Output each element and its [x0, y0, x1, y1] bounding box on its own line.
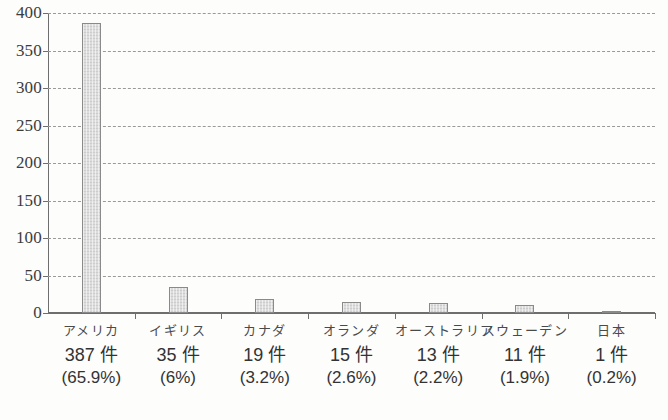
gridline-350	[48, 51, 655, 52]
y-axis-tick-label: 100	[2, 229, 42, 246]
y-tick-mark-100	[43, 238, 48, 239]
category-count-label: 11 件	[482, 343, 569, 367]
category-percent-label: (3.2%)	[221, 367, 308, 389]
category-count-label: 13 件	[395, 343, 482, 367]
x-tick-mark	[655, 313, 656, 319]
gridline-50	[48, 276, 655, 277]
x-tick-mark	[395, 313, 396, 319]
x-tick-mark	[135, 313, 136, 319]
x-tick-mark	[308, 313, 309, 319]
y-tick-mark-50	[43, 276, 48, 277]
category-column: オランダ15 件(2.6%)	[308, 322, 395, 389]
category-column: カナダ19 件(3.2%)	[221, 322, 308, 389]
category-percent-label: (1.9%)	[482, 367, 569, 389]
bar-イギリス	[169, 287, 188, 313]
gridline-250	[48, 126, 655, 127]
x-tick-mark	[221, 313, 222, 319]
category-count-label: 1 件	[568, 343, 655, 367]
bar-オランダ	[342, 302, 361, 313]
category-column: 日本1 件(0.2%)	[568, 322, 655, 389]
category-column: スウェーデン11 件(1.9%)	[482, 322, 569, 389]
y-axis-tick-label: 50	[2, 267, 42, 284]
category-count-label: 387 件	[48, 343, 135, 367]
category-count-label: 35 件	[135, 343, 222, 367]
y-axis-tick-label: 350	[2, 42, 42, 59]
y-tick-mark-250	[43, 126, 48, 127]
x-tick-mark	[482, 313, 483, 319]
category-name-label: オーストラリア	[395, 322, 482, 339]
category-name-label: オランダ	[308, 322, 395, 339]
y-axis-tick-label: 400	[2, 4, 42, 21]
y-tick-mark-150	[43, 201, 48, 202]
y-axis-tick-label: 200	[2, 154, 42, 171]
category-percent-label: (6%)	[135, 367, 222, 389]
category-percent-label: (65.9%)	[48, 367, 135, 389]
bar-スウェーデン	[515, 305, 534, 313]
category-percent-label: (0.2%)	[568, 367, 655, 389]
gridline-100	[48, 238, 655, 239]
gridline-200	[48, 163, 655, 164]
category-name-label: 日本	[568, 322, 655, 339]
y-axis-tick-label: 0	[2, 304, 42, 321]
gridline-0	[48, 313, 655, 314]
bar-日本	[602, 311, 621, 313]
y-tick-mark-300	[43, 88, 48, 89]
gridline-300	[48, 88, 655, 89]
category-count-label: 19 件	[221, 343, 308, 367]
category-column: オーストラリア13 件(2.2%)	[395, 322, 482, 389]
y-axis-tick-label: 250	[2, 117, 42, 134]
category-name-label: スウェーデン	[482, 322, 569, 339]
category-name-label: アメリカ	[48, 322, 135, 339]
category-column: アメリカ387 件(65.9%)	[48, 322, 135, 389]
category-percent-label: (2.6%)	[308, 367, 395, 389]
y-tick-mark-200	[43, 163, 48, 164]
y-axis-tick-label: 300	[2, 79, 42, 96]
category-percent-label: (2.2%)	[395, 367, 482, 389]
y-tick-mark-0	[43, 313, 48, 314]
bar-chart: 400350300250200150100500 アメリカ387 件(65.9%…	[0, 0, 668, 420]
category-name-label: カナダ	[221, 322, 308, 339]
bar-アメリカ	[82, 23, 101, 313]
bar-カナダ	[255, 299, 274, 313]
bar-オーストラリア	[429, 303, 448, 313]
y-tick-mark-350	[43, 51, 48, 52]
gridline-150	[48, 201, 655, 202]
plot-area	[48, 13, 655, 313]
category-name-label: イギリス	[135, 322, 222, 339]
x-tick-mark	[568, 313, 569, 319]
gridline-400	[48, 13, 655, 14]
y-tick-mark-400	[43, 13, 48, 14]
y-axis-tick-label: 150	[2, 192, 42, 209]
category-count-label: 15 件	[308, 343, 395, 367]
category-column: イギリス35 件(6%)	[135, 322, 222, 389]
